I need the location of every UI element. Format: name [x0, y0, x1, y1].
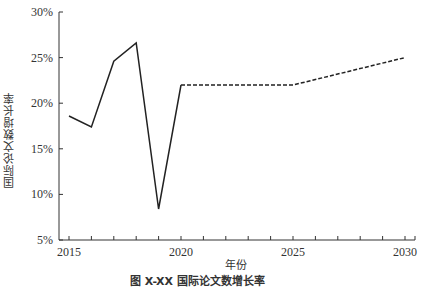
y-tick-label: 10% — [31, 187, 53, 201]
y-tick-label: 30% — [31, 5, 53, 19]
y-axis-label: 国际论文数增长率 — [2, 70, 18, 210]
x-tick-label: 2025 — [281, 245, 305, 259]
x-tick-label: 2030 — [393, 245, 417, 259]
x-axis-label: 年份 — [225, 256, 247, 272]
x-tick-label: 2015 — [57, 245, 81, 259]
y-tick-label: 25% — [31, 51, 53, 65]
x-tick-label: 2020 — [169, 245, 193, 259]
y-tick-label: 20% — [31, 96, 53, 110]
forecast-line — [181, 58, 405, 85]
actual-line — [69, 43, 181, 209]
figure-caption: 图 X-XX 国际论文数增长率 — [130, 272, 265, 288]
y-tick-label: 5% — [37, 233, 53, 247]
y-tick-label: 15% — [31, 142, 53, 156]
